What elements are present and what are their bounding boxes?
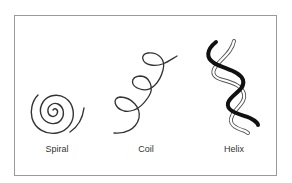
- spiral-icon: [31, 95, 84, 133]
- spiral-label: Spiral: [45, 144, 68, 154]
- helix-icon: [208, 41, 258, 133]
- coil-icon: [114, 53, 177, 133]
- helix-label: Helix: [224, 144, 244, 154]
- diagram-art: [0, 0, 292, 183]
- coil-label: Coil: [138, 144, 154, 154]
